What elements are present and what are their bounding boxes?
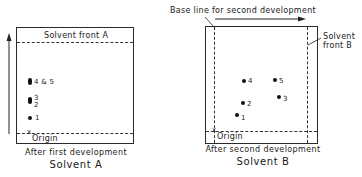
title-solvent-b: Solvent B [198,156,328,167]
spot-b-4-label: 4 [248,77,253,86]
spot-b-2 [241,101,245,105]
solvent-front-b-label-line1: Solvent [323,32,355,41]
caption-b: After second development [198,145,328,154]
plate-b [205,26,318,144]
spot-b-3-label: 3 [283,95,288,104]
spot-b-1-label: 1 [241,114,246,123]
spot-b-4 [242,79,246,83]
spot-b-3 [277,95,281,99]
origin-label-b: Origin [217,132,243,141]
spot-b-1 [235,113,239,117]
origin-marker-b: x [212,126,216,135]
solvent-front-b-line [307,27,308,143]
spot-b-5 [273,78,277,82]
solvent-front-b-label-line2: front B [323,41,352,50]
spot-b-2-label: 2 [247,100,252,109]
spot-b-5-label: 5 [279,77,284,86]
